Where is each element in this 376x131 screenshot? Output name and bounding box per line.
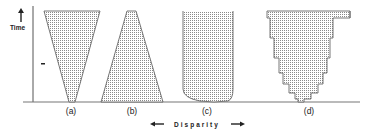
disparity-axis-label: Disparity xyxy=(174,121,220,129)
panel-a-label: (a) xyxy=(66,106,77,116)
panel-b-label: (b) xyxy=(127,106,138,116)
panel-a-shape xyxy=(44,11,100,102)
disparity-time-diagram: Time (a) (b) (c) (d) Disparity xyxy=(0,0,376,131)
panel-b-shape xyxy=(101,11,163,102)
time-axis-label: Time xyxy=(10,24,25,31)
left-arrow-icon xyxy=(150,122,164,127)
panel-c-shape xyxy=(183,11,233,102)
panel-d-shape xyxy=(267,11,350,102)
right-arrow-icon xyxy=(231,122,245,127)
tick-mark xyxy=(41,63,45,65)
time-arrow-icon xyxy=(18,8,24,22)
panel-c-label: (c) xyxy=(202,106,212,116)
panel-d-label: (d) xyxy=(304,106,315,116)
